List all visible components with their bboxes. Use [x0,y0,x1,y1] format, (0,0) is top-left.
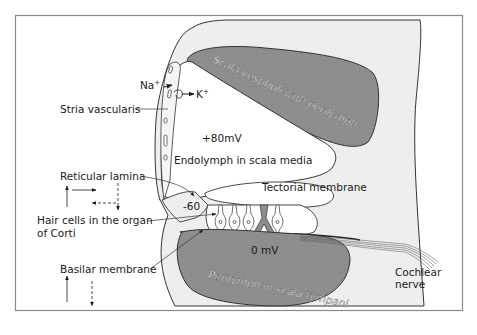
cochlear-nerve-label-line2: nerve [395,278,425,290]
scala-media-label: Endolymph in scala media [174,154,312,166]
hair-cell-potential: -60 [183,200,200,212]
hair-cells-label-line2: of Corti [37,227,76,239]
hair-cells-label-line1: Hair cells in the organ [37,214,153,226]
endolymph-potential: +80mV [202,132,242,144]
perilymph-potential: 0 mV [251,244,279,256]
basilar-membrane-label: Basilar membrane [60,263,156,275]
tectorial-membrane-label: Tectorial membrane [261,181,367,193]
cochlear-nerve-label-line1: Cochlear [395,266,442,278]
stria-vascularis-label: Stria vascularis [60,103,140,115]
cochlea-diagram: Na+ K+ Stria vascularis +80mV Endolymph … [0,0,477,335]
reticular-lamina-label: Reticular lamina [60,170,145,182]
